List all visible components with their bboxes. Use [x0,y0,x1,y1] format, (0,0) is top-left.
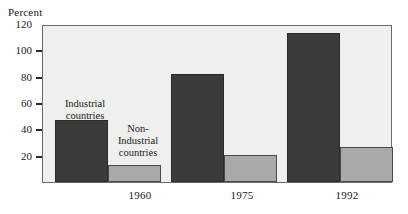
y-axis-tick-label-20: 20 [0,150,32,163]
bar-1992-nonindustrial [340,147,393,182]
y-axis-unit-label: Percent [8,6,42,18]
bar-chart: Percent 120 100 80 60 40 20 [0,0,408,214]
y-axis-tick-label-80: 80 [0,71,32,84]
bar-1992-industrial [287,33,340,183]
y-axis-tick-label-120: 120 [0,18,32,31]
y-axis-tick-label-100: 100 [0,44,32,57]
annotation-nonindustrial-countries: Non- Industrial countries [102,123,174,159]
bar-1960-nonindustrial [108,165,161,182]
y-axis-tick-label-60: 60 [0,97,32,110]
bar-1960-industrial [55,120,108,182]
x-axis-label-1992: 1992 [317,189,377,202]
plot-area: Industrial countries Non- Industrial cou… [42,25,392,183]
annotation-industrial-countries: Industrial countries [49,98,121,122]
annotation-nonindustrial-line-3: countries [102,147,174,159]
annotation-industrial-line-1: Industrial [49,98,121,110]
bar-1975-nonindustrial [224,155,277,182]
y-axis-tick-label-40: 40 [0,123,32,136]
x-axis-label-1975: 1975 [212,189,272,202]
annotation-nonindustrial-line-2: Industrial [102,135,174,147]
x-axis-label-1960: 1960 [110,189,170,202]
bar-1975-industrial [171,74,224,182]
annotation-industrial-line-2: countries [49,110,121,122]
annotation-nonindustrial-line-1: Non- [102,123,174,135]
